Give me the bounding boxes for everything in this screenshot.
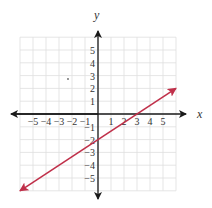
x-tick-label: −3: [54, 116, 65, 127]
x-tick-label: −2: [67, 116, 78, 127]
x-tick-label: −5: [28, 116, 39, 127]
x-tick-label: 5: [161, 116, 166, 127]
y-tick-label: −3: [84, 147, 95, 158]
axes: [11, 31, 186, 199]
y-tick-label: 5: [90, 45, 95, 56]
y-tick-label: 3: [90, 71, 95, 82]
x-tick-label: 3: [135, 116, 140, 127]
y-tick-label: −4: [84, 160, 95, 171]
x-tick-label: 1: [109, 116, 114, 127]
coordinate-plane: x y −5−4−3−2−11234554321−1−2−3−4−5: [0, 0, 212, 208]
y-axis-label: y: [93, 8, 100, 22]
y-tick-label: 2: [90, 83, 95, 94]
stray-point: [67, 78, 69, 80]
y-tick-label: 1: [90, 96, 95, 107]
x-tick-label: −4: [41, 116, 52, 127]
x-axis-label: x: [196, 107, 203, 121]
y-tick-label: −1: [84, 122, 95, 133]
x-tick-label: 4: [148, 116, 153, 127]
y-tick-label: −2: [84, 135, 95, 146]
y-tick-label: −5: [84, 173, 95, 184]
y-tick-label: 4: [90, 58, 95, 69]
